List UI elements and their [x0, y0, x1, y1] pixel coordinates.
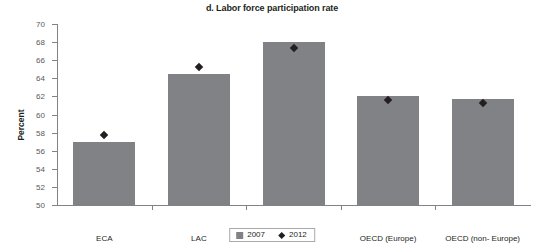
chart-figure: d. Labor force participation rate Percen…	[0, 0, 544, 250]
y-axis-tick: 62	[52, 96, 57, 97]
y-axis-tick-label: 50	[36, 201, 45, 210]
y-axis-tick-label: 52	[36, 182, 45, 191]
y-axis-tick: 66	[52, 60, 57, 61]
y-axis-tick: 68	[52, 42, 57, 43]
legend-diamond-swatch-icon	[278, 231, 285, 238]
marker-2012	[195, 63, 203, 71]
x-axis-tick	[341, 205, 342, 210]
chart-title: d. Labor force participation rate	[0, 3, 544, 13]
x-axis-tick	[435, 205, 436, 210]
y-axis-tick-label: 62	[36, 92, 45, 101]
y-axis-tick-label: 66	[36, 56, 45, 65]
y-axis-tick-label: 54	[36, 164, 45, 173]
bar-2007	[357, 96, 419, 205]
y-axis-tick: 52	[52, 187, 57, 188]
y-axis-tick-label: 70	[36, 20, 45, 29]
legend-square-swatch-icon	[236, 232, 243, 239]
bar-2007	[263, 42, 325, 205]
y-axis-tick-label: 60	[36, 110, 45, 119]
x-axis-category-label: OECD (non- Europe)	[445, 234, 520, 243]
legend-item-2012: 2012	[278, 231, 307, 239]
y-axis-tick-label: 64	[36, 74, 45, 83]
x-axis-category-label: OECD (Europe)	[360, 234, 416, 243]
bar-2007	[452, 99, 514, 205]
bar-2007	[73, 142, 135, 205]
x-axis-line	[57, 205, 531, 206]
x-axis-category-label: ECA	[96, 234, 112, 243]
marker-2012	[100, 131, 108, 139]
y-axis-tick-label: 68	[36, 38, 45, 47]
x-axis-tick	[152, 205, 153, 210]
y-axis-tick: 56	[52, 151, 57, 152]
legend-item-2007: 2007	[236, 231, 265, 239]
x-axis-category-label: LAC	[191, 234, 207, 243]
y-axis-tick: 58	[52, 133, 57, 134]
y-axis-title: Percent	[16, 109, 26, 140]
y-axis-tick-label: 56	[36, 146, 45, 155]
y-axis-tick: 50	[52, 205, 57, 206]
y-axis-tick-label: 58	[36, 128, 45, 137]
x-axis-tick	[246, 205, 247, 210]
y-axis-tick: 54	[52, 169, 57, 170]
plot-area: 5052545658606264666870ECALACEAPOECD (Eur…	[57, 24, 530, 205]
legend-label-2012: 2012	[289, 231, 307, 239]
chart-legend: 2007 2012	[229, 228, 315, 242]
legend-label-2007: 2007	[247, 231, 265, 239]
y-axis-tick: 64	[52, 78, 57, 79]
y-axis-tick: 70	[52, 24, 57, 25]
y-axis-tick: 60	[52, 115, 57, 116]
bar-2007	[168, 74, 230, 205]
